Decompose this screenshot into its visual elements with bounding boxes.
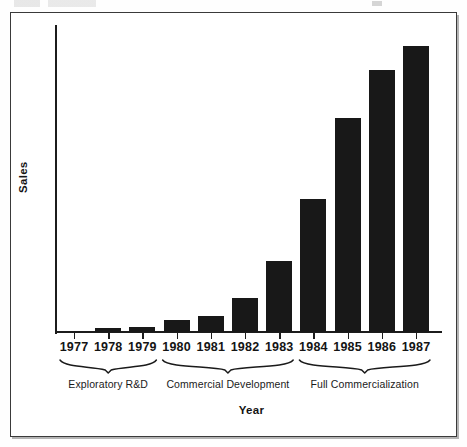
x-axis-ticks (57, 333, 447, 340)
brace-icon-2 (299, 360, 430, 373)
tick-1978 (108, 333, 109, 339)
tick-1982 (245, 333, 246, 339)
scan-artifact-top-right (372, 1, 382, 6)
bar-chart-figure: 1977197819791980198119821983198419851986… (0, 0, 467, 447)
phase-annotations: Exploratory R&D Commercial Development F… (0, 358, 467, 404)
x-axis-tick-labels: 1977197819791980198119821983198419851986… (57, 340, 447, 358)
phase-label-exploratory-rd: Exploratory R&D (60, 378, 156, 390)
phase-label-full-commercialization: Full Commercialization (299, 378, 430, 390)
tick-1985 (348, 333, 349, 339)
x-axis-title: Year (0, 404, 467, 416)
brace-icon-1 (163, 360, 294, 373)
bar-1986 (369, 70, 395, 332)
bar-1985 (335, 118, 361, 332)
tick-1983 (279, 333, 280, 339)
year-label-1987: 1987 (396, 340, 436, 354)
tick-1987 (416, 333, 417, 339)
phase-label-commercial-development: Commercial Development (163, 378, 294, 390)
tick-1981 (211, 333, 212, 339)
tick-1980 (177, 333, 178, 339)
scan-artifact-top (14, 0, 314, 7)
bar-1979 (129, 327, 155, 332)
brace-icon-0 (60, 360, 156, 373)
bar-1987 (403, 46, 429, 332)
bars-container (57, 25, 442, 332)
bar-1981 (198, 316, 224, 332)
bar-1980 (164, 320, 190, 332)
bar-1983 (266, 261, 292, 332)
bar-1984 (300, 199, 326, 332)
y-axis-title: Sales (17, 142, 33, 212)
tick-1986 (382, 333, 383, 339)
tick-1977 (74, 333, 75, 339)
tick-1984 (313, 333, 314, 339)
bar-1978 (95, 328, 121, 332)
bar-1982 (232, 298, 258, 332)
tick-1979 (142, 333, 143, 339)
